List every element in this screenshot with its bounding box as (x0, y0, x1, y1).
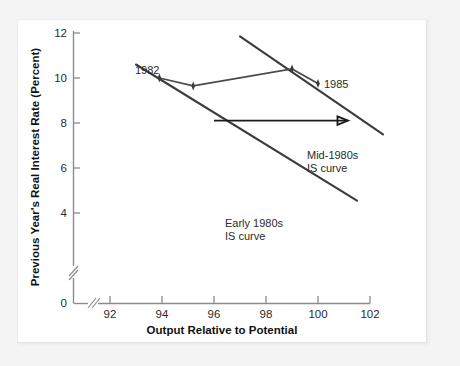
mid-1980s-is-curve (240, 36, 383, 134)
is-curve-chart: 12 10 8 6 4 0 92 94 96 98 100 102 (0, 0, 460, 366)
x-tick-label-102: 102 (360, 308, 379, 320)
y-tick-label-6: 6 (61, 162, 67, 174)
annotation-mid-1980s-line2: IS curve (307, 162, 347, 174)
x-axis: 92 94 96 98 100 102 (74, 296, 380, 320)
y-axis-title: Previous Year's Real Interest Rate (Perc… (29, 48, 41, 287)
annotation-1985: 1985 (324, 78, 348, 90)
y-axis: 12 10 8 6 4 0 (54, 27, 80, 309)
y-tick-label-8: 8 (61, 117, 67, 129)
x-tick-label-98: 98 (260, 308, 273, 320)
annotation-early-1980s-line1: Early 1980s (225, 217, 284, 229)
data-marker-1983 (191, 81, 195, 90)
x-tick-label-92: 92 (104, 308, 117, 320)
y-tick-label-12: 12 (54, 27, 67, 39)
y-tick-label-10: 10 (54, 72, 67, 84)
y-tick-label-4: 4 (61, 207, 68, 219)
data-marker-1985 (316, 79, 320, 88)
screenshot-root: 12 10 8 6 4 0 92 94 96 98 100 102 (0, 0, 460, 366)
annotation-early-1980s-line2: IS curve (225, 230, 265, 242)
annotation-1982: 1982 (135, 64, 159, 76)
x-tick-label-100: 100 (308, 308, 327, 320)
x-axis-title: Output Relative to Potential (147, 324, 298, 336)
annotation-mid-1980s-line1: Mid-1980s (307, 149, 359, 161)
shift-arrow (214, 116, 348, 124)
y-tick-label-0: 0 (61, 297, 67, 309)
data-path-1982-1985 (159, 69, 318, 86)
x-tick-label-94: 94 (156, 308, 169, 320)
x-tick-label-96: 96 (208, 308, 221, 320)
